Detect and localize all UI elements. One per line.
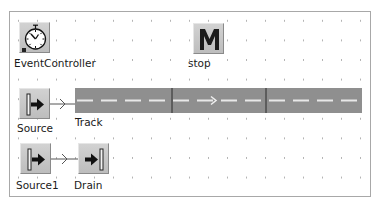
drain-arrow-icon <box>79 144 110 175</box>
lane-markings <box>75 88 362 113</box>
source-label: Source <box>17 122 53 134</box>
connector-source-track[interactable] <box>50 97 76 111</box>
track-conveyor[interactable] <box>75 88 362 113</box>
connector-source1-drain[interactable] <box>51 152 79 166</box>
stop-label: stop <box>188 57 211 69</box>
clock-icon <box>20 23 51 54</box>
m-letter-icon <box>194 24 225 55</box>
source-arrow-icon <box>20 89 51 120</box>
source-block[interactable] <box>19 88 50 119</box>
drain-label: Drain <box>74 179 102 191</box>
drain-block[interactable] <box>78 143 109 174</box>
track-label: Track <box>75 116 102 128</box>
stop-block[interactable] <box>193 23 224 54</box>
source1-label: Source1 <box>16 179 59 191</box>
source1-block[interactable] <box>20 143 51 174</box>
event-controller-block[interactable] <box>19 22 50 53</box>
event-controller-label: EventController <box>14 57 96 69</box>
source-arrow-icon <box>21 144 52 175</box>
